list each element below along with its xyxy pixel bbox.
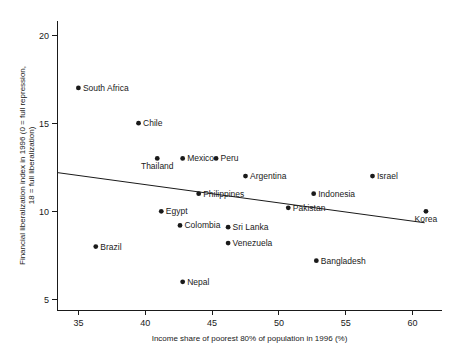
data-point-label: Israel [377, 171, 398, 181]
data-point-dot[interactable] [370, 174, 375, 179]
y-tick-label: 10 [39, 207, 49, 217]
data-point-dot[interactable] [180, 279, 185, 284]
data-point-dot[interactable] [155, 156, 160, 161]
data-point-label: Egypt [166, 206, 188, 216]
data-point-dot[interactable] [178, 223, 183, 228]
x-tick-label: 60 [408, 318, 418, 328]
data-point-dot[interactable] [159, 209, 164, 214]
data-point-label: Indonesia [318, 189, 355, 199]
data-point-label: Bangladesh [321, 256, 366, 266]
data-point-label: Korea [415, 214, 438, 224]
data-point-label: Venezuela [233, 238, 273, 248]
y-tick-label: 20 [39, 31, 49, 41]
data-point-label: Sri Lanka [233, 222, 269, 232]
data-point-dot[interactable] [286, 205, 291, 210]
data-point-label: Philippines [203, 189, 244, 199]
data-point-label: Mexico [187, 153, 214, 163]
data-point-dot[interactable] [226, 241, 231, 246]
scatter-plot: 3540455055605101520Income share of poore… [0, 0, 469, 348]
data-point-dot[interactable] [424, 209, 429, 214]
x-tick-label: 35 [73, 318, 83, 328]
chart-page: 3540455055605101520Income share of poore… [0, 0, 469, 348]
data-point-label: Colombia [184, 220, 220, 230]
x-tick-label: 45 [207, 318, 217, 328]
data-point-dot[interactable] [93, 244, 98, 249]
x-tick-label: 40 [140, 318, 150, 328]
y-axis-title-line2: 18 = full liberalization) [27, 126, 36, 204]
data-point-dot[interactable] [311, 191, 316, 196]
data-point-label: South Africa [83, 83, 129, 93]
y-tick-label: 5 [44, 295, 49, 305]
y-axis-title-line1: Financial liberalization index in 1996 (… [18, 66, 27, 265]
data-point-dot[interactable] [214, 156, 219, 161]
data-point-dot[interactable] [180, 156, 185, 161]
data-point-label: Thailand [141, 161, 174, 171]
data-point-dot[interactable] [196, 191, 201, 196]
x-tick-label: 55 [341, 318, 351, 328]
data-point-label: Brazil [100, 242, 121, 252]
data-point-dot[interactable] [76, 86, 81, 91]
data-point-dot[interactable] [314, 258, 319, 263]
data-point-dot[interactable] [226, 225, 231, 230]
data-point-label: Peru [221, 153, 239, 163]
x-axis-title: Income share of poorest 80% of populatio… [152, 334, 348, 343]
data-point-label: Chile [143, 118, 163, 128]
data-point-dot[interactable] [136, 121, 141, 126]
x-tick-label: 50 [274, 318, 284, 328]
data-point-label: Argentina [250, 171, 287, 181]
data-point-dot[interactable] [243, 174, 248, 179]
data-point-label: Nepal [187, 277, 209, 287]
y-tick-label: 15 [39, 119, 49, 129]
data-point-label: Pakistan [293, 203, 326, 213]
